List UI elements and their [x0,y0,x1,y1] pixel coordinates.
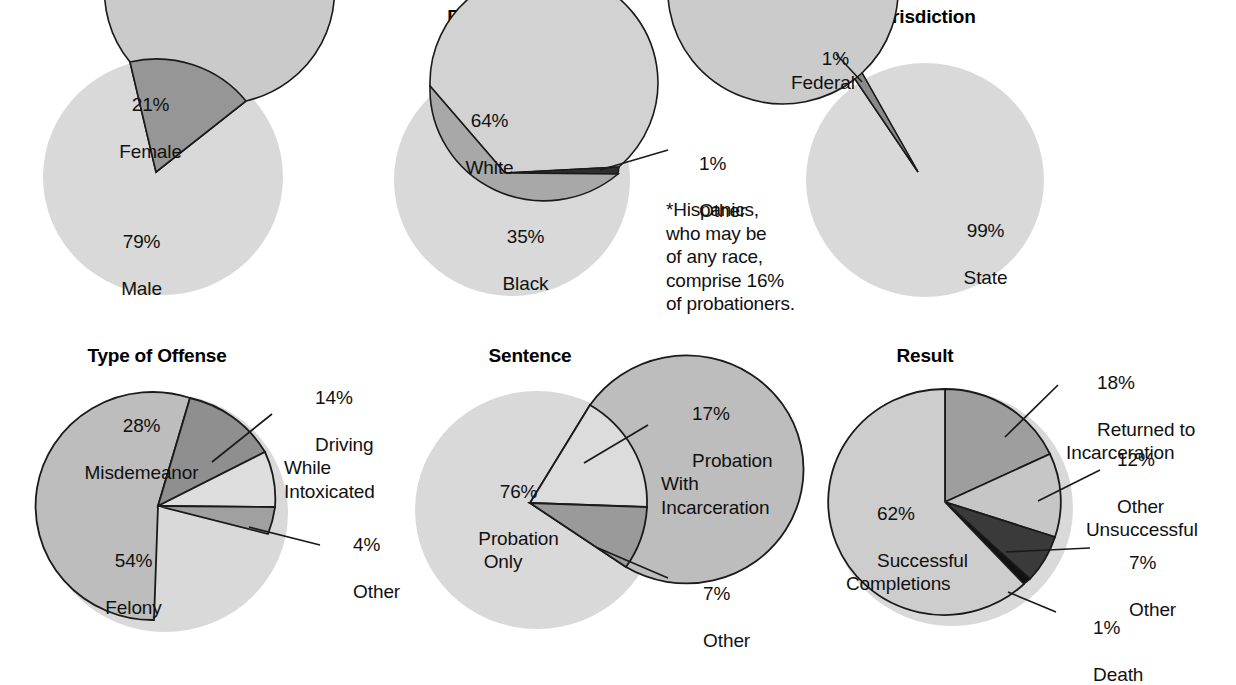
label-returned-pct: 18% [1097,372,1135,393]
label-death-pct: 1% [1093,617,1120,638]
label-other-unsuccessful-pct: 12% [1117,449,1155,470]
label-death: 1% Death [1062,592,1143,685]
label-death-name: Death [1093,664,1143,685]
label-successful-pct: 62% [877,503,915,524]
label-successful-name: Successful Completions [846,550,968,595]
label-result-other-pct: 7% [1129,552,1156,573]
label-successful-completions: 62% Successful Completions [846,478,968,619]
